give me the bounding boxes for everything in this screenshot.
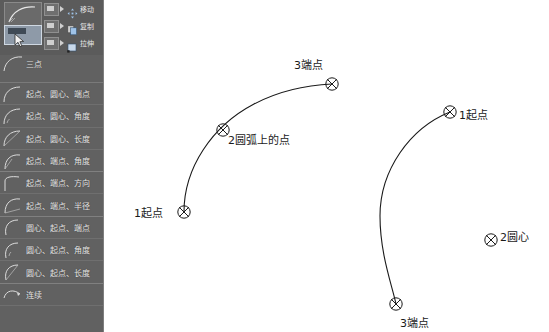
arc-point-marker-center-right (485, 234, 497, 246)
ribbon-command-column: 移动 复制 (44, 1, 102, 53)
arc-center-start-length-icon (0, 262, 26, 282)
flyout-menu-item-0[interactable]: 起点、圆心、端点 (0, 83, 103, 105)
arc-start-center-length-icon (0, 128, 26, 148)
flyout-menu-item-6-label: 圆心、起点、端点 (26, 222, 90, 233)
label-3-end-left: 3端点 (294, 56, 323, 72)
arc-tool-button[interactable] (4, 2, 42, 26)
arc-point-marker-start-right (444, 106, 456, 118)
label-2-on-arc-left: 2圆弧上的点 (228, 131, 290, 147)
arc-three-point (184, 84, 332, 212)
flyout-menu-item-2-label: 起点、圆心、长度 (26, 133, 90, 144)
flyout-menu-item-3[interactable]: 起点、端点、角度 (0, 150, 103, 172)
arc-start-center-angle-icon (0, 106, 26, 126)
flyout-menu-item-7-label: 圆心、起点、角度 (26, 244, 90, 255)
flyout-menu-item-3-label: 起点、端点、角度 (26, 155, 90, 166)
flyout-menu-item-9[interactable]: 连续 (0, 284, 103, 306)
arc-center-start-end-icon (0, 217, 26, 237)
arc-start-center-end-icon (0, 84, 26, 104)
arc-start-end-radius-icon (0, 195, 26, 215)
arc-center-start-angle-icon (0, 240, 26, 260)
flyout-menu-item-9-label: 连续 (26, 289, 42, 300)
ribbon-command-stretch-label: 拉伸 (80, 38, 94, 48)
chevron-right-icon (60, 40, 64, 46)
flyout-menu-item-0-label: 起点、圆心、端点 (26, 88, 90, 99)
flyout-menu-item-4[interactable]: 起点、端点、方向 (0, 172, 103, 194)
move-swatch-icon (44, 3, 59, 16)
arc-flyout-menu: 三点 起点、圆心、端点 起点、圆心、角度 (0, 55, 104, 332)
label-2-center-right: 2圆心 (500, 228, 529, 244)
ribbon-command-copy[interactable]: 复制 (44, 18, 102, 34)
flyout-menu-item-8-label: 圆心、起点、长度 (26, 267, 90, 278)
label-1-start-right: 1起点 (459, 106, 488, 122)
chevron-right-icon (60, 6, 64, 12)
app-root: 移动 复制 (0, 0, 549, 332)
label-1-start-left: 1起点 (134, 204, 163, 220)
flyout-menu-item-1[interactable]: 起点、圆心、角度 (0, 105, 103, 127)
flyout-menu-item-2[interactable]: 起点、圆心、长度 (0, 128, 103, 150)
flyout-menu-item-5-label: 起点、端点、半径 (26, 200, 90, 211)
chevron-right-icon (60, 23, 64, 29)
flyout-menu-item-6[interactable]: 圆心、起点、端点 (0, 217, 103, 239)
arc-start-end-direction-icon (0, 173, 26, 193)
flyout-menu-item-7[interactable]: 圆心、起点、角度 (0, 239, 103, 261)
flyout-menu-item-8[interactable]: 圆心、起点、长度 (0, 261, 103, 283)
flyout-menu-item-5[interactable]: 起点、端点、半径 (0, 194, 103, 216)
arc-3point-icon (0, 53, 26, 73)
ribbon-command-copy-label: 复制 (80, 21, 94, 31)
flyout-menu-item-three-point[interactable]: 三点 (0, 55, 103, 83)
copy-swatch-icon (44, 20, 59, 33)
drawing-svg (104, 0, 549, 332)
copy-icon (67, 21, 78, 32)
flyout-menu-item-4-label: 起点、端点、方向 (26, 177, 90, 188)
ribbon-command-move[interactable]: 移动 (44, 1, 102, 17)
ribbon-toolbar: 移动 复制 (0, 0, 104, 55)
move-icon (67, 4, 78, 15)
arc-start-end-angle-icon (0, 151, 26, 171)
arc-point-marker-end-right (390, 298, 402, 310)
ribbon-command-move-label: 移动 (80, 4, 94, 14)
flyout-menu-item-1-label: 起点、圆心、角度 (26, 110, 90, 121)
arc-center-start-end (380, 112, 450, 304)
arc-continue-icon (0, 284, 26, 304)
label-3-end-right: 3端点 (400, 314, 429, 330)
stretch-icon (67, 38, 78, 49)
flyout-menu-item-three-point-label: 三点 (26, 58, 42, 69)
drawing-canvas[interactable]: 1起点2圆弧上的点3端点1起点2圆心3端点 (104, 0, 549, 332)
